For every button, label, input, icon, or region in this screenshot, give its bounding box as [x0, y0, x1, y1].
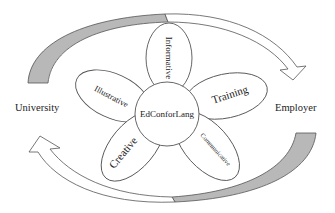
petal-informative-label: Informative — [164, 37, 174, 79]
university-label: University — [15, 102, 60, 113]
cycle-diagram: EdConforLang Informative Training Commun… — [0, 0, 335, 213]
center-label: EdConforLang — [140, 109, 194, 119]
employer-label: Employer — [275, 102, 317, 113]
